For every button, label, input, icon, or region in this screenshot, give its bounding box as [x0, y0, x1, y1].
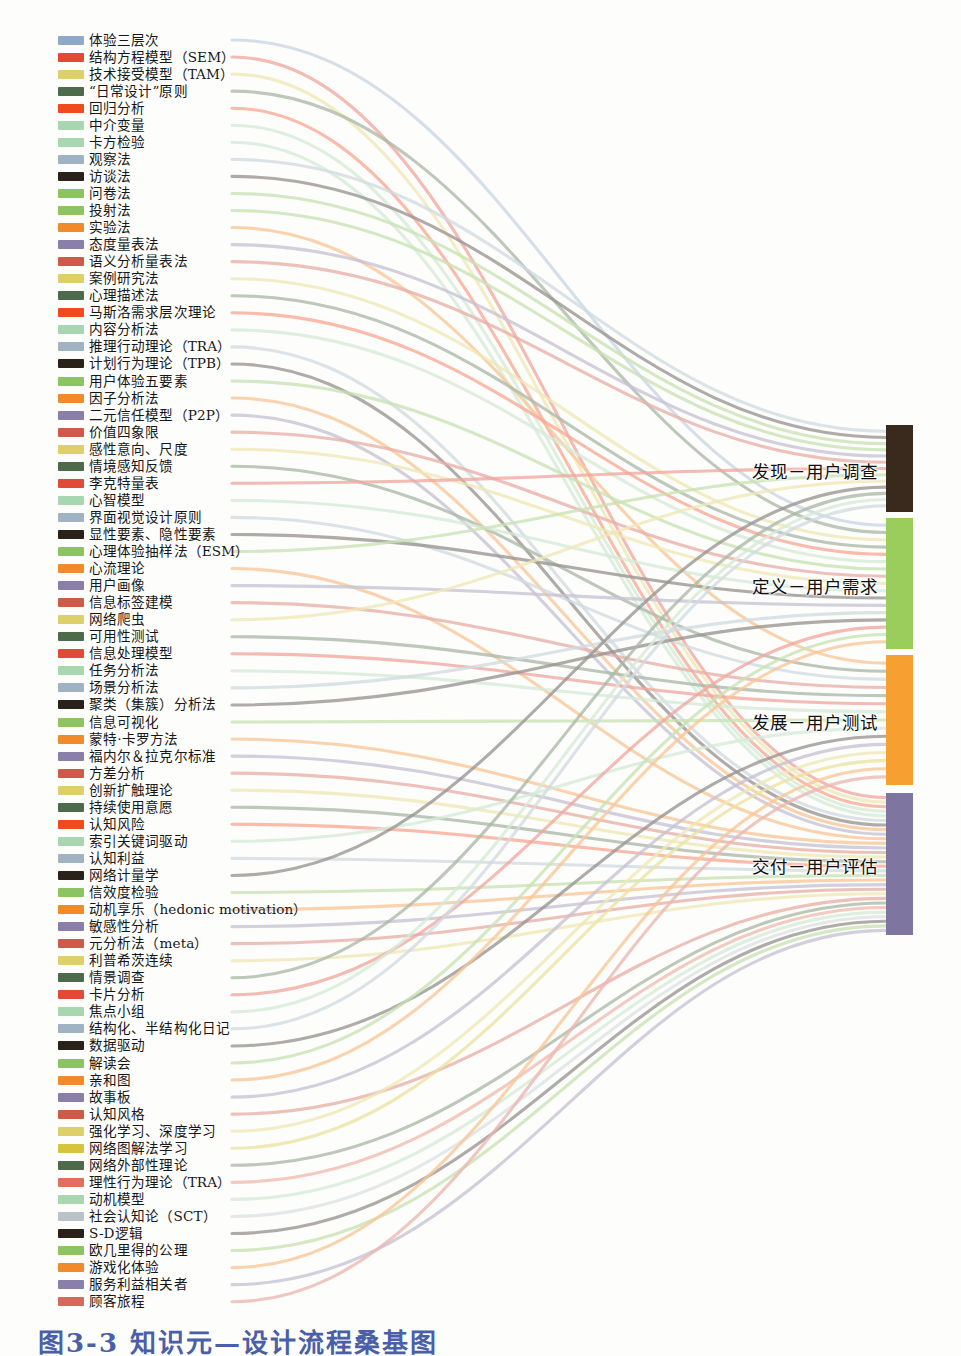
sankey-flow-canvas — [0, 0, 961, 1356]
sankey-figure: 体验三层次结构方程模型（SEM）技术接受模型（TAM）“日常设计”原则回归分析中… — [0, 0, 961, 1356]
sankey-link — [232, 930, 886, 1284]
target-node-discover[interactable] — [886, 425, 913, 512]
target-node-deliver[interactable] — [886, 793, 913, 935]
figure-caption: 图3-3 知识元—设计流程桑基图 — [38, 1322, 438, 1356]
target-node-define[interactable] — [886, 518, 913, 649]
target-label-develop: 发展－用户测试 — [752, 709, 878, 734]
target-label-define: 定义－用户需求 — [752, 573, 878, 598]
target-label-deliver: 交付－用户评估 — [752, 853, 878, 878]
target-label-discover: 发现－用户调查 — [752, 458, 878, 483]
sankey-link — [232, 875, 886, 892]
sankey-link — [232, 475, 886, 552]
target-node-develop[interactable] — [886, 655, 913, 785]
